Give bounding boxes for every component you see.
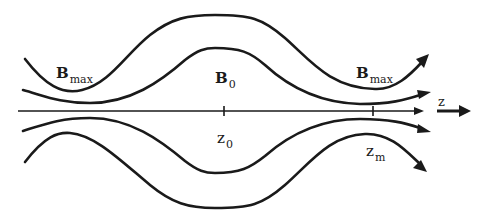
label-z-axis: z xyxy=(438,93,445,109)
arrowhead-inner-top xyxy=(417,90,431,99)
label-b0: B0 xyxy=(215,70,236,86)
mirror-field-diagram xyxy=(0,0,490,219)
label-zm: zm xyxy=(366,143,385,159)
arrowhead-z-direction xyxy=(459,105,471,117)
label-z0: z0 xyxy=(217,130,233,146)
label-bmax-right: Bmax xyxy=(356,65,393,81)
label-bmax-left: Bmax xyxy=(56,65,93,81)
arrowhead-axis xyxy=(414,107,424,115)
arrowhead-inner-bottom xyxy=(417,124,431,133)
arrowhead-outer-bottom xyxy=(413,160,427,172)
